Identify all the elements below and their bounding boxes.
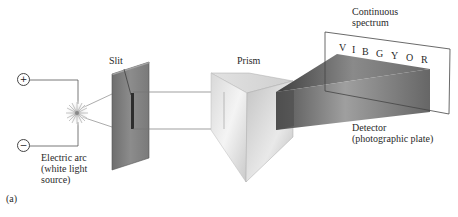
negative-terminal-icon: −	[17, 139, 30, 152]
detector-label-line2: (photographic plate)	[352, 133, 433, 144]
prism-label: Prism	[237, 55, 260, 66]
detector-label-line1: Detector	[352, 122, 386, 133]
spectrum-letter-green: G	[376, 48, 383, 59]
spectrum-letter-indigo: I	[352, 44, 355, 55]
spectrum-letter-violet: V	[339, 42, 346, 53]
slit-opening	[131, 93, 134, 129]
spectrum-letter-yellow: Y	[391, 50, 398, 61]
spectrum-label-line2: spectrum	[352, 17, 389, 28]
dispersed-spectrum-beam	[276, 54, 430, 130]
arc-label-line2: (white light	[41, 163, 87, 174]
arc-label-line3: source)	[41, 174, 70, 185]
electric-arc-icon	[64, 100, 90, 126]
spectrum-label-line1: Continuous	[352, 6, 398, 17]
positive-terminal-icon: +	[17, 73, 30, 86]
slit-plate	[112, 62, 150, 170]
spectrum-letter-red: R	[421, 54, 428, 65]
arc-label-line1: Electric arc	[41, 152, 87, 163]
spectrum-letter-blue: B	[362, 46, 369, 57]
slit-label: Slit	[109, 55, 123, 66]
spectrum-letter-orange: O	[406, 52, 413, 63]
panel-label: (a)	[6, 193, 17, 204]
